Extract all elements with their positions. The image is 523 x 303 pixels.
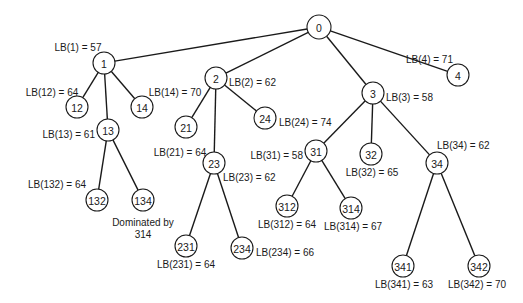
tree-node-12: 12	[66, 96, 88, 118]
lb-label-12: LB(12) = 64	[26, 87, 79, 98]
lb-label-341: LB(341) = 63	[375, 279, 434, 290]
tree-node-342: 342	[468, 255, 490, 277]
edge-34-342	[441, 173, 475, 256]
node-id: 1	[101, 58, 107, 70]
edge-31-314	[322, 160, 345, 198]
edge-1-12	[83, 72, 98, 97]
tree-node-1: 1	[93, 52, 115, 74]
edge-34-341	[406, 173, 433, 255]
lb-label-134: Dominated by	[112, 217, 174, 228]
lb-label-21: LB(21) = 64	[154, 147, 207, 158]
node-id: 31	[310, 146, 322, 158]
tree-node-341: 341	[392, 255, 414, 277]
edge-2-23	[214, 89, 215, 152]
tree-node-132: 132	[86, 189, 108, 211]
node-id: 21	[180, 122, 192, 134]
node-id: 341	[394, 261, 412, 273]
edge-1-13	[105, 74, 108, 119]
tree-node-2: 2	[205, 67, 227, 89]
edge-23-231	[190, 173, 211, 235]
tree-node-0: 0	[307, 15, 331, 39]
lb-label-14: LB(14) = 70	[149, 87, 202, 98]
tree-node-23: 23	[203, 152, 225, 174]
node-id: 132	[88, 195, 106, 207]
tree-node-32: 32	[360, 143, 382, 165]
lb-label-32: LB(32) = 65	[346, 167, 399, 178]
lb-label-231: LB(231) = 64	[157, 259, 216, 270]
node-id: 14	[136, 102, 148, 114]
edge-0-2	[226, 32, 308, 73]
node-id: 314	[342, 203, 360, 215]
lb-label-4: LB(4) = 71	[406, 54, 453, 65]
tree-node-13: 13	[97, 119, 119, 141]
tree-node-31: 31	[305, 140, 327, 162]
lb-label-314: LB(314) = 67	[324, 221, 383, 232]
tree-node-312: 312	[276, 195, 298, 217]
lb-label-132: LB(132) = 64	[28, 179, 87, 190]
node-id: 12	[71, 102, 83, 114]
edge-23-234	[217, 173, 238, 237]
lb-label-24: LB(24) = 74	[279, 117, 332, 128]
node-id: 2	[213, 73, 219, 85]
lb-label-312: LB(312) = 64	[258, 219, 317, 230]
node-id: 312	[278, 201, 296, 213]
tree-node-14: 14	[131, 96, 153, 118]
tree-node-231: 231	[175, 235, 197, 257]
tree-node-21: 21	[175, 116, 197, 138]
edge-0-4	[330, 31, 447, 71]
node-id: 32	[365, 149, 377, 161]
dominated-by-note-134: 314	[135, 229, 152, 240]
tree-node-134: 134	[132, 189, 154, 211]
lb-label-342: LB(342) = 70	[448, 279, 507, 290]
node-id: 34	[431, 158, 443, 170]
node-id: 231	[177, 241, 195, 253]
lb-label-1: LB(1) = 57	[55, 42, 102, 53]
edge-2-24	[225, 85, 257, 111]
edge-0-1	[115, 29, 307, 61]
node-id: 23	[208, 158, 220, 170]
tree-node-24: 24	[254, 107, 276, 129]
node-id: 134	[134, 195, 152, 207]
lb-label-2: LB(2) = 62	[229, 77, 276, 88]
lb-label-3: LB(3) = 58	[386, 92, 433, 103]
edge-13-132	[99, 141, 107, 189]
node-id: 13	[102, 125, 114, 137]
node-id: 24	[259, 113, 271, 125]
node-id: 234	[233, 243, 251, 255]
edge-13-134	[113, 140, 138, 190]
edge-3-32	[371, 104, 372, 143]
edge-31-312	[292, 161, 311, 197]
edge-0-3	[327, 36, 366, 84]
branch-and-bound-tree: 0123412131421232431323413213423123431231…	[0, 0, 523, 303]
node-id: 0	[316, 22, 322, 34]
node-id: 4	[455, 70, 461, 82]
tree-node-314: 314	[340, 197, 362, 219]
lb-label-34: LB(34) = 62	[437, 140, 490, 151]
lb-label-234: LB(234) = 66	[256, 247, 315, 258]
node-id: 342	[470, 261, 488, 273]
tree-node-234: 234	[231, 237, 253, 259]
tree-node-3: 3	[362, 82, 384, 104]
tree-node-4: 4	[447, 64, 469, 86]
lb-label-31: LB(31) = 58	[250, 150, 303, 161]
edge-1-14	[111, 71, 135, 98]
edge-3-34	[380, 101, 429, 155]
lb-label-23: LB(23) = 62	[223, 172, 276, 183]
lb-label-13: LB(13) = 61	[42, 129, 95, 140]
tree-node-34: 34	[426, 152, 448, 174]
node-id: 3	[370, 88, 376, 100]
